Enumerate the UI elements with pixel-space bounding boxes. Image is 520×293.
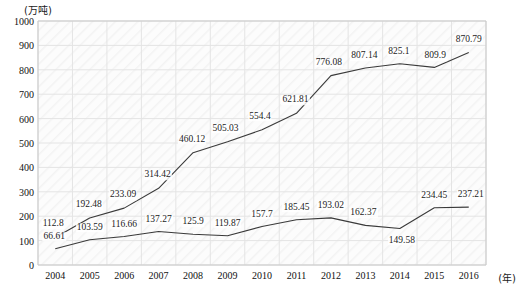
data-labels-layer: 112.8192.48233.09314.42460.12505.03554.4… [0,0,520,293]
data-label-lower-series-2005: 103.59 [76,223,104,233]
data-label-upper-series-2016: 870.79 [455,35,483,45]
data-label-lower-series-2014: 149.58 [388,236,416,246]
data-label-upper-series-2008: 460.12 [178,135,206,145]
data-label-lower-series-2008: 125.9 [181,218,204,228]
line-chart: (万吨) 01002003004005006007008009001000 20… [0,0,520,293]
data-label-lower-series-2016: 237.21 [457,190,485,200]
data-label-lower-series-2006: 116.66 [110,220,138,230]
data-label-upper-series-2009: 505.03 [211,124,239,134]
data-label-lower-series-2013: 162.37 [349,209,377,219]
data-label-upper-series-2006: 233.09 [109,190,137,200]
data-label-upper-series-2015: 809.9 [424,52,447,62]
data-label-upper-series-2012: 776.08 [315,58,343,68]
data-label-lower-series-2007: 137.27 [145,215,173,225]
data-label-lower-series-2010: 157.7 [250,210,273,220]
data-label-upper-series-2005: 192.48 [75,200,103,210]
data-label-lower-series-2012: 193.02 [317,201,345,211]
data-label-lower-series-2011: 185.45 [282,203,310,213]
data-label-upper-series-2014: 825.1 [387,47,410,57]
data-label-lower-series-2009: 119.87 [214,219,242,229]
data-label-upper-series-2013: 807.14 [350,51,378,61]
data-label-upper-series-2011: 621.81 [281,96,309,106]
data-label-lower-series-2015: 234.45 [420,191,448,201]
x-axis-unit-label: (年) [498,270,516,285]
data-label-lower-series-2004: 66.61 [43,232,66,242]
data-label-upper-series-2007: 314.42 [144,171,172,181]
data-label-upper-series-2010: 554.4 [248,112,271,122]
data-label-upper-series-2004: 112.8 [42,220,65,230]
